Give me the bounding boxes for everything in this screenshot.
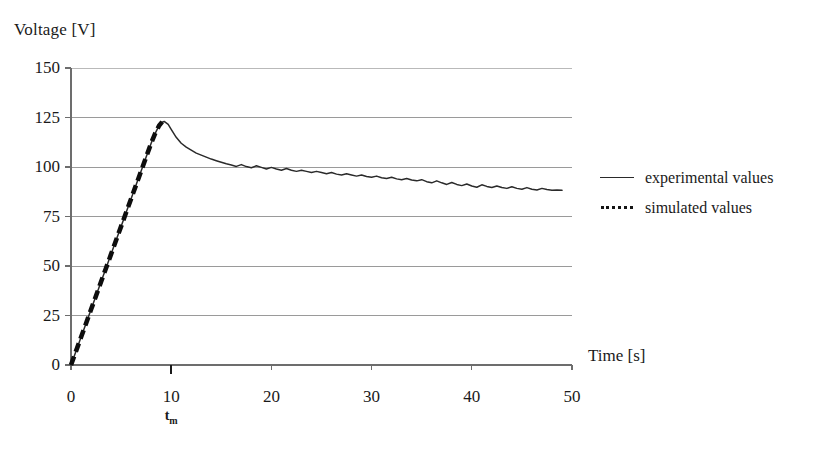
chart-legend: experimental values simulated values [600, 163, 773, 223]
legend-label-experimental: experimental values [645, 163, 773, 193]
legend-swatch-solid-line-icon [600, 171, 634, 185]
plot-canvas [0, 0, 815, 449]
legend-item-simulated: simulated values [600, 193, 773, 223]
legend-item-experimental: experimental values [600, 163, 773, 193]
series-line-experimental [71, 121, 562, 365]
chart-figure: Voltage [V] Time [s] 1501251007550250 01… [0, 0, 815, 449]
legend-swatch-dotted-line-icon [600, 201, 634, 215]
legend-label-simulated: simulated values [645, 193, 752, 223]
